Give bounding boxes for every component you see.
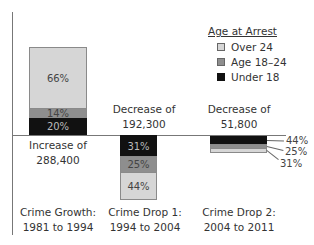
category-line: Crime Drop 2: [194,205,284,220]
bar1-total-label: Increase of 288,400 [18,138,98,168]
leader-line-over24 [266,150,278,160]
segment-label: 31% [127,141,149,152]
bar3-over24-label: 31% [280,158,302,169]
bar2-total-label: Decrease of 192,300 [104,102,184,132]
segment-label: 44% [127,181,149,192]
legend-label: Age 18–24 [231,56,287,68]
bar3-over24-segment [210,148,267,153]
bar2-category-label: Crime Drop 1: 1994 to 2004 [100,205,190,235]
total-value: 192,300 [104,117,184,132]
legend-swatch-mid-icon [217,58,225,66]
bar1-over24-segment: 66% [29,47,87,109]
total-line: Decrease of [199,102,279,117]
leader-line-under18 [267,140,284,142]
segment-label: 66% [47,73,69,84]
category-years: 1994 to 2004 [100,220,190,235]
segment-label: 25% [127,159,149,170]
legend-swatch-dark-icon [217,73,225,81]
category-line: Crime Drop 1: [100,205,190,220]
bar3-total-label: Decrease of 51,800 [199,102,279,132]
bar2-under18-segment: 31% [120,135,157,157]
total-value: 288,400 [18,153,98,168]
category-years: 1981 to 1994 [10,220,106,235]
legend-label: Under 18 [231,71,279,83]
bar1-under18-segment: 20% [29,118,87,135]
total-value: 51,800 [199,117,279,132]
segment-label: 20% [47,121,69,132]
y-axis-line [12,12,13,235]
category-years: 2004 to 2011 [194,220,284,235]
bar3-category-label: Crime Drop 2: 2004 to 2011 [194,205,284,235]
bar3-under18-label: 44% [286,135,308,146]
total-line: Decrease of [104,102,184,117]
legend-title: Age at Arrest [208,25,277,37]
legend-item-age-18-24: Age 18–24 [217,56,287,68]
legend-swatch-light-icon [217,43,225,51]
legend-item-over-24: Over 24 [217,41,273,53]
bar1-category-label: Crime Growth: 1981 to 1994 [10,205,106,235]
bar3-age18-24-label: 25% [285,146,307,157]
legend-label: Over 24 [231,41,273,53]
bar2-age18-24-segment: 25% [120,156,157,173]
bar2-over24-segment: 44% [120,172,157,200]
leader-line-age18-24 [267,146,284,151]
legend-item-under-18: Under 18 [217,71,279,83]
total-line: Increase of [18,138,98,153]
category-line: Crime Growth: [10,205,106,220]
